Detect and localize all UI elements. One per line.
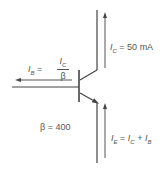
circuit-lines: [0, 0, 168, 171]
emitter-lead: [80, 93, 96, 102]
ib-label: IB =: [28, 64, 42, 76]
transistor-current-diagram: IC = 50 mA IB = IC β β = 400 IE = IC + I…: [0, 0, 168, 171]
ib-fraction: IC β: [57, 56, 69, 81]
collector-lead: [80, 70, 97, 80]
ic-label: IC = 50 mA: [110, 42, 153, 54]
ie-label: IE = IC + IB: [111, 133, 151, 145]
beta-label: β = 400: [40, 122, 70, 132]
